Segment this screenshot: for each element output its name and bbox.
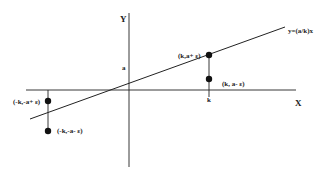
regression-line: [30, 27, 285, 119]
point-negk-nega-minus: [45, 128, 51, 134]
y-tick-label: a: [122, 64, 126, 72]
x-axis-label: X: [295, 98, 302, 108]
point-label-k-a-minus: (k, a- ε): [222, 80, 245, 88]
line-label: y=(a/k)x: [288, 27, 313, 35]
point-label-negk-nega-minus: (-k,-a- ε): [57, 127, 83, 135]
regression-diagram: Y X y=(a/k)x a k (k,a+ ε) (k, a- ε) (-k,…: [0, 0, 327, 177]
point-negk-nega-plus: [45, 98, 51, 104]
point-label-negk-nega-plus: (-k,-a+ ε): [13, 98, 41, 106]
point-k-a-minus: [206, 76, 212, 82]
point-label-k-a-plus: (k,a+ ε): [178, 52, 201, 60]
x-tick-label: k: [207, 96, 211, 104]
y-axis-label: Y: [120, 14, 127, 24]
point-k-a-plus: [206, 52, 212, 58]
